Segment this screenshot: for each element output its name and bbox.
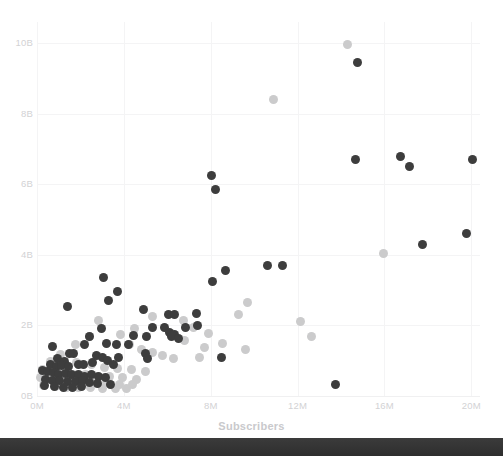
data-point: [180, 336, 189, 345]
data-point: [241, 345, 250, 354]
data-point: [141, 367, 150, 376]
data-point: [93, 372, 102, 381]
gridline-vertical: [298, 22, 299, 396]
data-point: [396, 152, 405, 161]
data-point: [139, 305, 148, 314]
data-point: [94, 316, 103, 325]
data-point: [351, 155, 360, 164]
data-point: [170, 330, 179, 339]
data-point: [71, 377, 80, 386]
data-point: [105, 372, 114, 381]
data-point: [59, 369, 68, 378]
data-point: [102, 378, 111, 387]
x-axis-tick-label: 12M: [278, 400, 318, 411]
data-point: [80, 340, 89, 349]
y-axis-tick-label: 10B: [3, 38, 33, 48]
data-point: [99, 273, 108, 282]
data-point: [61, 369, 70, 378]
data-point: [221, 266, 230, 275]
y-axis-tick-label: 2B: [3, 320, 33, 330]
data-point: [85, 332, 94, 341]
data-point: [63, 302, 72, 311]
data-point: [142, 332, 151, 341]
gridline-vertical: [211, 22, 212, 396]
data-point: [74, 383, 83, 392]
data-point: [269, 95, 278, 104]
plot-area: [37, 22, 480, 396]
data-point: [71, 340, 80, 349]
data-point: [167, 332, 176, 341]
data-point: [218, 339, 227, 348]
data-point: [103, 356, 112, 365]
data-point: [46, 357, 55, 366]
data-point: [115, 380, 124, 389]
data-point: [80, 372, 89, 381]
data-point: [418, 240, 427, 249]
data-point: [106, 380, 115, 389]
data-point: [55, 376, 64, 385]
x-axis-tick-label: 16M: [364, 400, 404, 411]
gridline-vertical: [384, 22, 385, 396]
data-point: [118, 373, 127, 382]
data-point: [189, 323, 198, 332]
data-point: [181, 323, 190, 332]
data-point: [125, 340, 134, 349]
data-point: [64, 362, 73, 371]
data-point: [174, 334, 183, 343]
data-point: [93, 379, 102, 388]
data-point: [63, 377, 72, 386]
y-axis-tick-label: 6B: [3, 179, 33, 189]
data-point: [74, 370, 83, 379]
data-point: [263, 261, 272, 270]
data-point: [85, 378, 94, 387]
data-point: [98, 384, 107, 393]
data-point: [128, 380, 137, 389]
data-point: [111, 384, 120, 393]
data-point: [113, 287, 122, 296]
scatter-chart: 0B2B4B6B8B10B 0M4M8M12M16M20M Subscriber…: [0, 0, 503, 438]
data-point: [114, 353, 123, 362]
data-point: [69, 349, 78, 358]
data-point: [65, 377, 74, 386]
data-point: [468, 155, 477, 164]
data-point: [169, 354, 178, 363]
data-point: [48, 376, 57, 385]
data-point: [85, 332, 94, 341]
data-point: [39, 381, 48, 390]
data-point: [141, 349, 150, 358]
data-point: [69, 370, 78, 379]
data-point: [50, 382, 59, 391]
data-point: [165, 328, 174, 337]
data-point: [43, 367, 52, 376]
gridline-vertical: [471, 22, 472, 396]
data-point: [158, 351, 167, 360]
data-point: [211, 185, 220, 194]
data-point: [170, 310, 179, 319]
data-point: [51, 382, 60, 391]
data-point: [38, 366, 47, 375]
data-point: [74, 360, 83, 369]
data-point: [113, 364, 122, 373]
data-point: [102, 339, 111, 348]
data-point: [88, 358, 97, 367]
data-point: [100, 363, 109, 372]
gridline-horizontal: [37, 255, 480, 256]
gridline-horizontal: [37, 396, 480, 397]
data-point: [49, 368, 58, 377]
data-point: [278, 261, 287, 270]
data-point: [148, 323, 157, 332]
data-point: [57, 361, 66, 370]
data-point: [76, 377, 85, 386]
data-point: [48, 367, 57, 376]
data-point: [59, 383, 68, 392]
data-point: [54, 370, 63, 379]
data-point: [343, 40, 352, 49]
data-point: [207, 171, 216, 180]
data-point: [65, 349, 74, 358]
data-point: [44, 375, 53, 384]
data-point: [78, 376, 87, 385]
data-point: [353, 58, 362, 67]
data-point: [124, 340, 133, 349]
data-point: [89, 378, 98, 387]
data-point: [195, 353, 204, 362]
